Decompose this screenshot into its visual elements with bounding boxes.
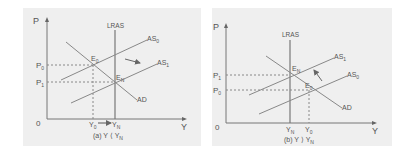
svg-text:YN: YN (112, 121, 121, 130)
svg-text:EN: EN (292, 65, 301, 74)
svg-text:Y0: Y0 (305, 126, 313, 135)
y-axis-label: P (213, 22, 219, 32)
as1-curve (249, 58, 334, 95)
ad-label: AD (342, 104, 352, 111)
diagram-a: P 0 Y LRAS AS0 AS1 AD E0 EN P0 P1 Y0 YN … (23, 8, 201, 146)
svg-text:E0: E0 (91, 55, 99, 64)
lras-label: LRAS (107, 22, 125, 29)
x-axis-arrow-icon (182, 117, 187, 121)
x-axis-label: Y (372, 126, 378, 136)
shift-arrow-icon (125, 59, 140, 63)
svg-text:AS0: AS0 (347, 71, 359, 80)
x-axis-label: Y (181, 122, 187, 132)
y-axis-arrow-icon (45, 17, 49, 22)
diagram-b: P 0 Y LRAS AS1 AS0 AD EN E0 P1 P0 YN Y0 … (212, 8, 392, 146)
panel-a-y-below-natural: P 0 Y LRAS AS0 AS1 AD E0 EN P0 P1 Y0 YN … (23, 8, 201, 146)
lras-label: LRAS (282, 31, 300, 38)
origin-label: 0 (36, 119, 41, 128)
ad-curve (66, 42, 137, 100)
svg-text:P1: P1 (36, 78, 44, 88)
svg-text:(a) Y ⟨ YN: (a) Y ⟨ YN (93, 132, 123, 141)
svg-text:P0: P0 (36, 61, 44, 71)
svg-text:AS0: AS0 (147, 35, 159, 44)
svg-text:Y0: Y0 (89, 121, 97, 130)
svg-text:YN: YN (286, 126, 295, 135)
shift-arrow-icon (314, 70, 322, 81)
svg-text:P1: P1 (213, 71, 221, 81)
panel-b-y-above-natural: P 0 Y LRAS AS1 AS0 AD EN E0 P1 P0 YN Y0 … (212, 8, 392, 146)
ad-label: AD (137, 96, 147, 103)
ad-curve (266, 56, 342, 108)
svg-text:AS1: AS1 (334, 53, 346, 62)
y-axis-label: P (33, 16, 39, 26)
svg-text:AS1: AS1 (157, 59, 169, 68)
svg-text:(b) Y ⟩ YN: (b) Y ⟩ YN (284, 136, 314, 145)
x-axis-arrow-icon (372, 121, 377, 125)
y-axis-arrow-icon (224, 23, 228, 28)
svg-text:P0: P0 (213, 86, 221, 96)
origin-label: 0 (215, 123, 220, 132)
